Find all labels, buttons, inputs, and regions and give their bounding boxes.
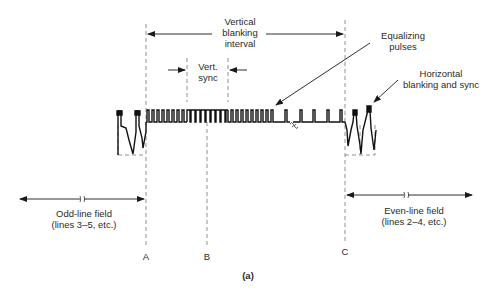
label-line: (lines 2–4, etc.): [374, 216, 454, 227]
label-line: (lines 3–5, etc.): [44, 219, 124, 230]
figure-caption: (a): [238, 270, 258, 281]
horizontal-blanking-label: Horizontal blanking and sync: [396, 68, 486, 90]
label-line: Odd-line field: [44, 208, 124, 219]
label-line: Horizontal: [396, 68, 486, 79]
label-line: Vert.: [190, 61, 226, 72]
label-line: Vertical: [212, 16, 268, 27]
equalizing-pointer: [276, 43, 370, 105]
vert-sync-label: Vert. sync: [190, 61, 226, 83]
marker-b-label: B: [201, 251, 213, 262]
equalizing-pulses-label: Equalizing pulses: [366, 30, 440, 52]
label-line: interval: [212, 38, 268, 49]
label-line: blanking and sync: [396, 79, 486, 90]
even-field-label: Even-line field (lines 2–4, etc.): [374, 205, 454, 227]
label-line: blanking: [212, 27, 268, 38]
label-line: pulses: [366, 41, 440, 52]
label-line: Equalizing: [366, 30, 440, 41]
horizontal-pointer: [374, 80, 398, 102]
label-line: Even-line field: [374, 205, 454, 216]
odd-field-label: Odd-line field (lines 3–5, etc.): [44, 208, 124, 230]
vertical-blanking-label: Vertical blanking interval: [212, 16, 268, 49]
label-line: sync: [190, 72, 226, 83]
waveform: [117, 106, 376, 155]
marker-c-label: C: [339, 246, 351, 257]
marker-a-label: A: [140, 251, 152, 262]
